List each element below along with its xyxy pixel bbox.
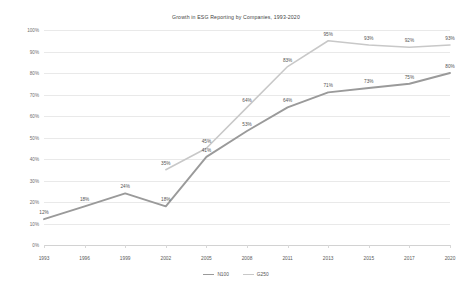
x-axis-tick-mark <box>288 245 289 248</box>
x-axis-tick-label: 2013 <box>323 256 334 261</box>
legend-item-g250[interactable]: G250 <box>243 272 269 277</box>
x-axis-tick-label: 2005 <box>201 256 212 261</box>
y-axis-tick-label: 20% <box>30 200 39 205</box>
x-axis-tick-mark <box>206 245 207 248</box>
x-axis-tick-mark <box>247 245 248 248</box>
y-axis-tick-label: 50% <box>30 135 39 140</box>
chart-legend: N100G250 <box>0 272 472 277</box>
series-line-g250 <box>166 41 450 170</box>
x-axis-tick-label: 2011 <box>282 256 292 261</box>
x-axis-tick-label: 2008 <box>242 256 253 261</box>
legend-label: G250 <box>257 272 269 277</box>
y-axis-tick-label: 100% <box>27 28 39 33</box>
x-axis-tick-mark <box>85 245 86 248</box>
legend-swatch <box>203 274 214 275</box>
y-axis-tick-label: 0% <box>32 243 39 248</box>
y-axis-tick-label: 40% <box>30 157 39 162</box>
y-axis-tick-label: 70% <box>30 92 39 97</box>
legend-item-n100[interactable]: N100 <box>203 272 228 277</box>
legend-label: N100 <box>217 272 228 277</box>
x-axis-tick-mark <box>369 245 370 248</box>
chart-title: Growth in ESG Reporting by Companies, 19… <box>0 14 472 20</box>
x-axis-tick-label: 1999 <box>120 256 131 261</box>
plot-area: 0%10%20%30%40%50%60%70%80%90%100% 199319… <box>44 30 450 245</box>
x-axis-tick-label: 2017 <box>404 256 415 261</box>
esg-reporting-chart: Growth in ESG Reporting by Companies, 19… <box>0 0 472 293</box>
x-axis-tick-label: 2020 <box>445 256 456 261</box>
x-axis-tick-mark <box>125 245 126 248</box>
x-axis-tick-mark <box>409 245 410 248</box>
x-axis-tick-mark <box>44 245 45 248</box>
x-axis-tick-label: 2002 <box>160 256 171 261</box>
series-line-n100 <box>44 73 450 219</box>
y-axis-tick-label: 90% <box>30 49 39 54</box>
y-axis-tick-label: 10% <box>30 221 39 226</box>
y-axis-tick-label: 60% <box>30 114 39 119</box>
x-axis-tick-label: 1996 <box>79 256 90 261</box>
legend-swatch <box>243 274 254 275</box>
x-axis-tick-label: 2015 <box>363 256 374 261</box>
x-axis-tick-mark <box>450 245 451 248</box>
x-axis-tick-mark <box>166 245 167 248</box>
x-axis-tick-mark <box>328 245 329 248</box>
y-axis-tick-label: 80% <box>30 71 39 76</box>
x-axis-tick-label: 1993 <box>39 256 50 261</box>
y-axis-tick-label: 30% <box>30 178 39 183</box>
series-lines <box>44 30 450 245</box>
